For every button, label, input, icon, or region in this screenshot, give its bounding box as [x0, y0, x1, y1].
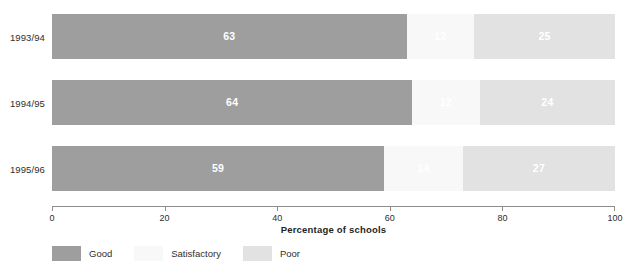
bar-segment-good[interactable]: 59 [52, 146, 384, 191]
x-axis-tick-label: 80 [497, 213, 507, 223]
bar-stack-1: 64 12 24 [52, 80, 615, 125]
bar-stack-0: 63 12 25 [52, 14, 615, 59]
legend-item[interactable]: Good [52, 246, 112, 261]
bar-segment-value: 63 [223, 31, 235, 42]
bar-segment-value: 25 [538, 31, 550, 42]
category-label-0: 1993/94 [10, 31, 45, 42]
x-axis: 020406080100 [52, 206, 615, 207]
x-axis-tick [52, 206, 53, 211]
bar-segment-good[interactable]: 63 [52, 14, 407, 59]
legend-swatch [52, 246, 81, 261]
legend-label: Satisfactory [171, 248, 221, 259]
bar-segment-good[interactable]: 64 [52, 80, 412, 125]
legend-item[interactable]: Poor [243, 246, 300, 261]
legend-swatch [243, 246, 272, 261]
x-axis-tick-label: 40 [272, 213, 282, 223]
x-axis-tick [390, 206, 391, 211]
legend-item[interactable]: Satisfactory [134, 246, 221, 261]
bar-segment-poor[interactable]: 24 [480, 80, 615, 125]
bar-segment-poor[interactable]: 27 [463, 146, 615, 191]
legend-label: Poor [280, 248, 300, 259]
bar-segment-value: 14 [417, 163, 429, 174]
bar-stack-2: 59 14 27 [52, 146, 615, 191]
x-axis-tick [277, 206, 278, 211]
bar-segment-value: 59 [212, 163, 224, 174]
bar-segment-poor[interactable]: 25 [474, 14, 615, 59]
x-axis-title: Percentage of schools [52, 224, 615, 235]
plot-area: 1993/94 63 12 25 1994/95 64 12 [52, 14, 615, 206]
x-axis-tick [502, 206, 503, 211]
bar-segment-satisfactory[interactable]: 12 [412, 80, 480, 125]
bar-row: 1995/96 59 14 27 [52, 146, 615, 191]
legend: GoodSatisfactoryPoor [52, 246, 322, 261]
bar-segment-value: 64 [226, 97, 238, 108]
x-axis-tick-label: 20 [160, 213, 170, 223]
category-label-2: 1995/96 [10, 163, 45, 174]
legend-swatch [134, 246, 163, 261]
bar-segment-satisfactory[interactable]: 12 [407, 14, 475, 59]
bar-segment-value: 27 [533, 163, 545, 174]
bar-segment-satisfactory[interactable]: 14 [384, 146, 463, 191]
x-axis-tick-label: 0 [49, 213, 54, 223]
legend-label: Good [89, 248, 112, 259]
x-axis-tick-label: 60 [385, 213, 395, 223]
bar-row: 1994/95 64 12 24 [52, 80, 615, 125]
x-axis-tick-label: 100 [607, 213, 622, 223]
stacked-bar-chart: 1993/94 63 12 25 1994/95 64 12 [0, 0, 633, 274]
x-axis-tick [165, 206, 166, 211]
bar-row: 1993/94 63 12 25 [52, 14, 615, 59]
bar-segment-value: 12 [434, 31, 446, 42]
bar-segment-value: 24 [541, 97, 553, 108]
bar-segment-value: 12 [440, 97, 452, 108]
x-axis-tick [614, 206, 615, 211]
category-label-1: 1994/95 [10, 97, 45, 108]
